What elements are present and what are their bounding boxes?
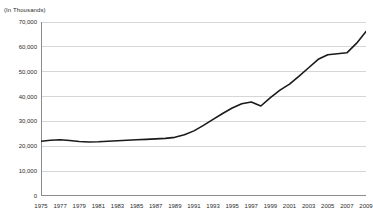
x-axis-tick-label: 2009 bbox=[359, 203, 372, 209]
x-axis-tick-labels: 1975197719791981198319851987198919911993… bbox=[41, 196, 366, 222]
x-axis-tick-label: 1993 bbox=[206, 203, 219, 209]
plot-area bbox=[41, 22, 366, 196]
y-axis-tick-label: 10,000 bbox=[19, 168, 37, 174]
x-axis-tick-label: 1977 bbox=[53, 203, 66, 209]
x-axis-tick-label: 1983 bbox=[111, 203, 124, 209]
x-axis-tick-label: 2001 bbox=[283, 203, 296, 209]
x-axis-tick-label: 1981 bbox=[92, 203, 105, 209]
x-axis-tick-label: 1999 bbox=[264, 203, 277, 209]
x-axis-tick-label: 1995 bbox=[225, 203, 238, 209]
y-axis-tick-label: 40,000 bbox=[19, 94, 37, 100]
data-series-line bbox=[41, 31, 366, 142]
x-axis-tick-label: 1975 bbox=[34, 203, 47, 209]
y-axis-tick-label: 60,000 bbox=[19, 44, 37, 50]
y-axis-tick-label: 50,000 bbox=[19, 69, 37, 75]
x-axis-tick-label: 1997 bbox=[245, 203, 258, 209]
gridlines bbox=[41, 22, 366, 196]
y-axis-tick-label: 30,000 bbox=[19, 118, 37, 124]
x-axis-tick-label: 1979 bbox=[73, 203, 86, 209]
y-axis-tick-labels: 010,00020,00030,00040,00050,00060,00070,… bbox=[0, 22, 41, 196]
plot-svg bbox=[41, 22, 366, 196]
y-axis-tick-label: 20,000 bbox=[19, 143, 37, 149]
x-axis-tick-marks bbox=[41, 22, 366, 196]
x-axis-tick-label: 2005 bbox=[321, 203, 334, 209]
units-note: (In Thousands) bbox=[4, 7, 46, 13]
x-axis-tick-label: 1989 bbox=[168, 203, 181, 209]
x-axis-tick-label: 2007 bbox=[340, 203, 353, 209]
y-axis-tick-label: 0 bbox=[34, 193, 37, 199]
x-axis-tick-label: 2003 bbox=[302, 203, 315, 209]
x-axis-tick-label: 1987 bbox=[149, 203, 162, 209]
x-axis-tick-label: 1985 bbox=[130, 203, 143, 209]
y-axis-tick-label: 70,000 bbox=[19, 19, 37, 25]
x-axis-tick-label: 1991 bbox=[187, 203, 200, 209]
